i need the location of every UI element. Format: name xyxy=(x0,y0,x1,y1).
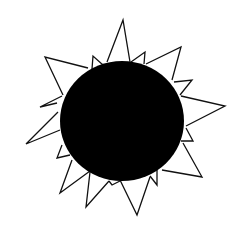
sun-ray xyxy=(120,177,150,215)
sun-drawing xyxy=(0,0,236,232)
sun-ray xyxy=(109,181,120,185)
sun-ray xyxy=(107,20,130,62)
sun-ray xyxy=(174,80,192,95)
sun-body xyxy=(60,61,184,181)
sun-ray xyxy=(26,112,60,144)
sun-ray xyxy=(181,96,225,126)
sun-ray xyxy=(40,96,62,107)
